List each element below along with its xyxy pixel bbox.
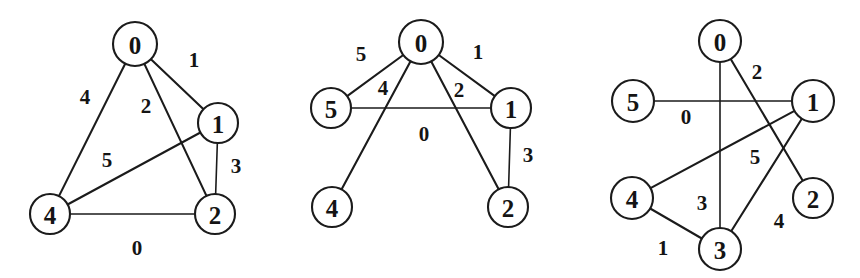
graph-3-nodes: 012345 [611, 20, 834, 270]
node-label-0: 0 [714, 29, 727, 56]
edge-graph-2-0-4 [341, 61, 410, 189]
node-label-4: 4 [626, 186, 639, 213]
edge-weight-label: 0 [419, 122, 430, 146]
graph-panel-1: 0124 124350 [0, 0, 287, 278]
edge-weight-label: 3 [697, 191, 708, 215]
graph-1-nodes: 0124 [30, 22, 238, 234]
edge-weight-label: 2 [752, 60, 763, 84]
node-label-0: 0 [415, 30, 428, 57]
node-label-1: 1 [807, 89, 820, 116]
edge-graph-3-1-3 [731, 119, 802, 231]
edge-weight-label: 4 [774, 209, 785, 233]
graph-3-canvas: 012345 230541 [574, 0, 860, 278]
graph-panel-3: 012345 230541 [574, 0, 860, 278]
node-label-2: 2 [502, 195, 515, 222]
node-label-4: 4 [44, 202, 57, 229]
edge-weight-label: 0 [132, 236, 143, 260]
graph-1-edges [59, 59, 217, 214]
edge-weight-label: 0 [681, 105, 692, 129]
edge-weight-label: 2 [141, 94, 152, 118]
edge-weight-label: 5 [102, 148, 113, 172]
node-label-5: 5 [627, 89, 640, 116]
edge-graph-3-4-3 [650, 209, 702, 239]
node-label-3: 3 [714, 237, 727, 264]
graph-1-canvas: 0124 124350 [0, 0, 287, 278]
edge-weight-label: 5 [356, 42, 367, 66]
node-label-2: 2 [209, 202, 222, 229]
edge-weight-label: 4 [378, 76, 389, 100]
edge-weight-label: 1 [189, 48, 200, 72]
edge-weight-label: 5 [750, 145, 761, 169]
edge-graph-1-1-2 [216, 143, 218, 194]
edge-graph-1-0-4 [59, 64, 125, 196]
graph-panel-2: 01245 514203 [287, 0, 574, 278]
edge-weight-label: 3 [231, 154, 242, 178]
edge-graph-1-1-4 [68, 133, 201, 205]
edge-weight-label: 1 [473, 40, 484, 64]
node-label-1: 1 [212, 111, 225, 138]
edge-graph-3-0-2 [731, 59, 803, 181]
edge-graph-3-4-1 [651, 111, 795, 188]
node-label-0: 0 [129, 32, 142, 59]
node-label-1: 1 [505, 96, 518, 123]
edge-weight-label: 3 [523, 143, 534, 167]
edge-graph-2-0-2 [431, 61, 498, 189]
edge-weight-label: 2 [454, 78, 465, 102]
edge-weight-label: 1 [658, 236, 669, 260]
edge-graph-2-1-2 [509, 128, 511, 187]
node-label-2: 2 [807, 186, 820, 213]
graph-figure: 0124 124350 01245 514203 012345 230541 [0, 0, 860, 278]
graph-2-canvas: 01245 514203 [287, 0, 574, 278]
node-label-5: 5 [325, 96, 338, 123]
edge-weight-label: 4 [80, 85, 91, 109]
node-label-4: 4 [326, 195, 339, 222]
